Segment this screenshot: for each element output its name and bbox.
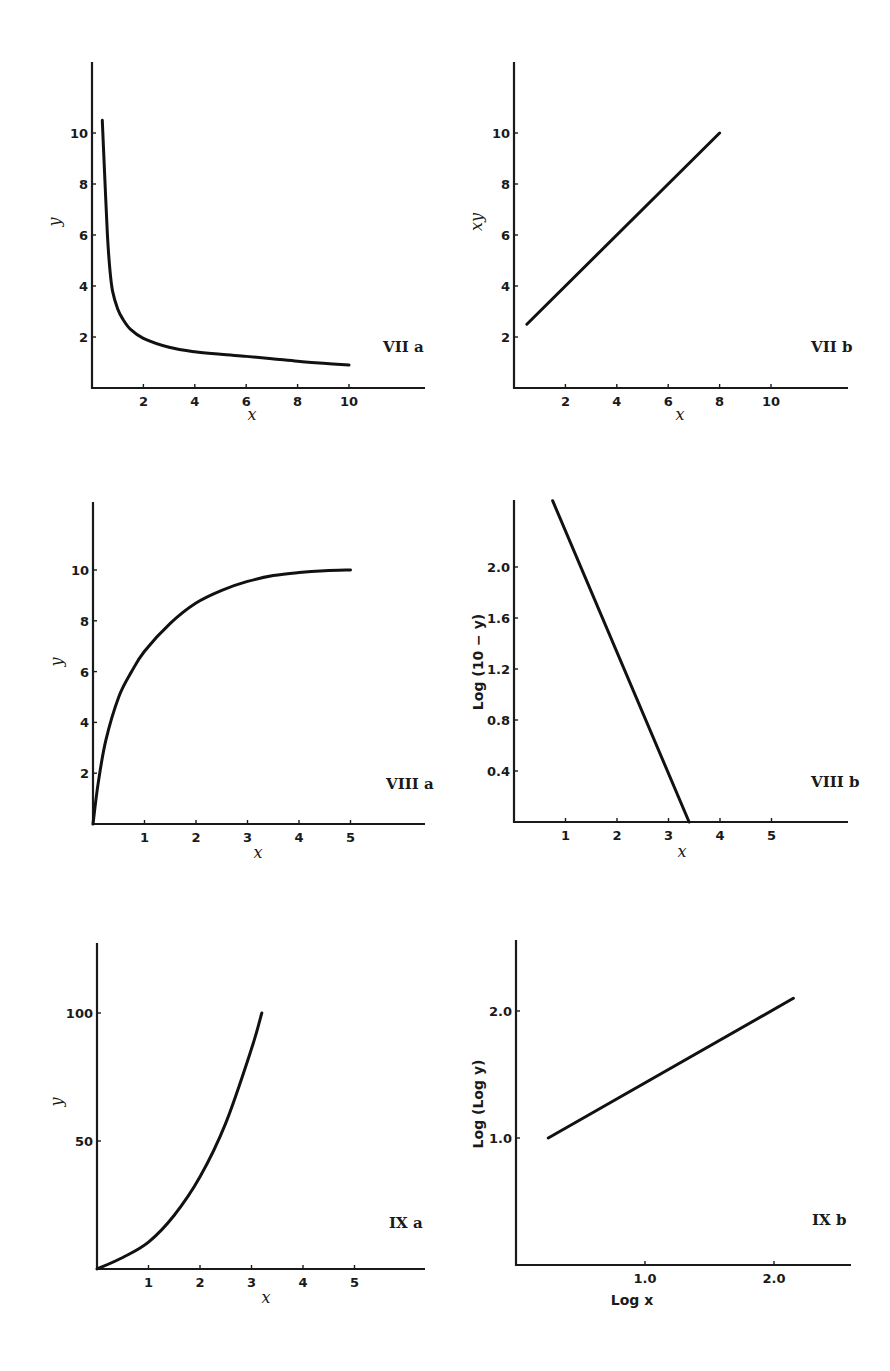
- x-axis-label: x: [253, 843, 262, 862]
- panel-VIIa: 246810246810 x y VII a: [45, 62, 425, 424]
- y-tick-label: 2.0: [487, 560, 510, 575]
- x-tick-label: 6: [664, 394, 673, 409]
- y-tick-label: 4: [501, 279, 510, 294]
- y-tick-label: 50: [75, 1134, 93, 1149]
- x-tick-label: 4: [612, 394, 621, 409]
- x-tick-label: 2: [612, 828, 621, 843]
- tick-labels: 246810246810: [70, 126, 358, 409]
- data-curve: [97, 1013, 262, 1269]
- y-tick-label: 2.0: [489, 1004, 512, 1019]
- x-tick-label: 1: [144, 1275, 153, 1290]
- y-tick-label: 0.4: [487, 764, 510, 779]
- y-tick-label: 100: [66, 1006, 93, 1021]
- tick-labels: 246810246810: [492, 126, 780, 409]
- tick-labels: 1.02.01.02.0: [489, 1004, 786, 1286]
- panel-VIIIa: 12345246810 x y VIII a: [47, 502, 434, 862]
- panel-label: VIII a: [385, 775, 434, 793]
- panel-label: VIII b: [810, 773, 859, 791]
- y-tick-label: 4: [79, 279, 88, 294]
- x-tick-label: 1.0: [633, 1271, 656, 1286]
- x-tick-label: 3: [664, 828, 673, 843]
- ticks: [514, 133, 771, 388]
- panel-label: IX b: [812, 1211, 846, 1229]
- y-tick-label: 10: [70, 126, 88, 141]
- y-tick-label: 6: [80, 665, 89, 680]
- data-line: [553, 501, 689, 822]
- y-axis-label: y: [45, 217, 64, 228]
- x-tick-label: 4: [294, 830, 303, 845]
- ticks: [93, 570, 351, 824]
- x-tick-label: 10: [340, 394, 358, 409]
- y-tick-label: 4: [80, 715, 89, 730]
- x-tick-label: 5: [350, 1275, 359, 1290]
- panel-IXb: 1.02.01.02.0 Log x Log (Log y) IX b: [470, 940, 851, 1308]
- data-curve: [102, 120, 349, 365]
- x-tick-label: 4: [715, 828, 724, 843]
- y-axis-label: y: [47, 657, 66, 668]
- data-line: [548, 998, 793, 1138]
- x-tick-label: 5: [767, 828, 776, 843]
- panel-label: VII a: [382, 338, 424, 356]
- y-tick-label: 10: [492, 126, 510, 141]
- x-tick-label: 2.0: [762, 1271, 785, 1286]
- panel-VIIb: 246810246810 x xy VII b: [467, 62, 852, 424]
- axes-frame: [516, 940, 851, 1265]
- panel-label: VII b: [810, 338, 852, 356]
- ticks: [97, 1013, 355, 1269]
- x-axis-label: x: [675, 405, 684, 424]
- y-axis-label: xy: [467, 212, 486, 231]
- tick-labels: 123450.40.81.21.62.0: [487, 560, 776, 843]
- y-tick-label: 6: [501, 228, 510, 243]
- tick-labels: 12345246810: [71, 563, 355, 845]
- panel-label: IX a: [389, 1214, 423, 1232]
- y-tick-label: 8: [501, 177, 510, 192]
- y-tick-label: 10: [71, 563, 89, 578]
- x-axis-label: Log x: [611, 1292, 653, 1308]
- x-tick-label: 1: [561, 828, 570, 843]
- figure-canvas: 246810246810 x y VII a 246810246810 x xy…: [0, 0, 890, 1371]
- axes-frame: [97, 943, 425, 1269]
- x-tick-label: 2: [191, 830, 200, 845]
- ticks: [516, 1011, 774, 1265]
- x-tick-label: 4: [298, 1275, 307, 1290]
- axes-frame: [93, 502, 425, 824]
- ticks: [514, 567, 772, 822]
- axes-frame: [514, 62, 848, 388]
- y-tick-label: 8: [79, 177, 88, 192]
- ticks: [92, 133, 349, 388]
- x-tick-label: 2: [139, 394, 148, 409]
- x-tick-label: 2: [195, 1275, 204, 1290]
- y-tick-label: 6: [79, 228, 88, 243]
- y-tick-label: 1.2: [487, 662, 510, 677]
- y-tick-label: 2: [79, 330, 88, 345]
- data-line: [527, 133, 720, 324]
- panel-VIIIb: 123450.40.81.21.62.0 x Log (10 − y) VIII…: [470, 500, 859, 861]
- x-tick-label: 4: [190, 394, 199, 409]
- y-tick-label: 0.8: [487, 713, 510, 728]
- y-tick-label: 1.6: [487, 611, 510, 626]
- x-axis-label: x: [261, 1288, 270, 1307]
- y-axis-label: y: [47, 1097, 66, 1108]
- y-tick-label: 2: [501, 330, 510, 345]
- tick-labels: 1234550100: [66, 1006, 359, 1290]
- x-axis-label: x: [247, 405, 256, 424]
- y-axis-label: Log (Log y): [470, 1060, 486, 1149]
- y-tick-label: 8: [80, 614, 89, 629]
- x-tick-label: 3: [243, 830, 252, 845]
- panel-IXa: 1234550100 x y IX a: [47, 943, 425, 1307]
- y-tick-label: 1.0: [489, 1131, 512, 1146]
- data-curve: [93, 570, 351, 824]
- x-tick-label: 10: [762, 394, 780, 409]
- x-tick-label: 1: [140, 830, 149, 845]
- axes-frame: [514, 500, 848, 822]
- x-tick-label: 5: [346, 830, 355, 845]
- y-axis-label: Log (10 − y): [470, 614, 486, 710]
- x-tick-label: 2: [561, 394, 570, 409]
- x-axis-label: x: [677, 842, 686, 861]
- x-tick-label: 8: [293, 394, 302, 409]
- y-tick-label: 2: [80, 766, 89, 781]
- x-tick-label: 8: [715, 394, 724, 409]
- x-tick-label: 3: [247, 1275, 256, 1290]
